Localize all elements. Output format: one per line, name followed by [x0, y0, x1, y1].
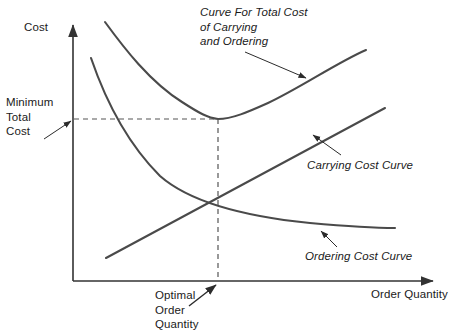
total-cost-curve-label: Curve For Total Cost of Carrying and Ord…: [200, 5, 308, 49]
carrying-cost-curve: [106, 108, 385, 258]
eoq-chart-figure: Cost Minimum Total Cost Curve For Total …: [0, 0, 457, 336]
minimum-total-cost-label: Minimum Total Cost: [6, 95, 53, 139]
ordering-cost-curve: [91, 58, 395, 228]
x-axis-label: Order Quantity: [371, 287, 448, 302]
carrying-cost-curve-label: Carrying Cost Curve: [307, 158, 413, 173]
ordering-cost-curve-label: Ordering Cost Curve: [305, 249, 412, 264]
optimal-order-quantity-label: Optimal Order Quantity: [155, 288, 199, 332]
y-axis-label: Cost: [24, 20, 48, 35]
total-cost-curve-leader-arrow: [245, 52, 306, 78]
ordering-cost-leader-arrow: [321, 231, 337, 247]
